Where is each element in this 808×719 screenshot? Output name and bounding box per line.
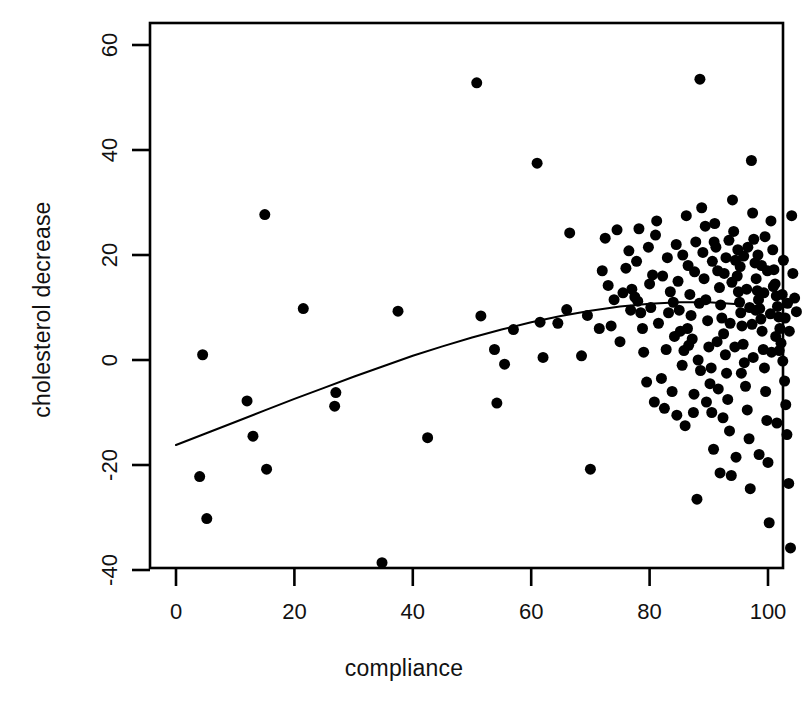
data-point: [197, 349, 208, 360]
data-point: [673, 276, 684, 287]
data-point: [475, 310, 486, 321]
data-point: [684, 289, 695, 300]
data-point: [751, 273, 762, 284]
data-point: [576, 350, 587, 361]
data-point: [747, 208, 758, 219]
data-point: [747, 319, 758, 330]
data-point: [612, 224, 623, 235]
data-point: [720, 252, 731, 263]
data-point: [701, 397, 712, 408]
scatter-plot-figure: 020406080100-40-200204060 compliance cho…: [0, 0, 808, 719]
x-tick-label: 60: [519, 599, 543, 624]
data-point: [761, 415, 772, 426]
data-point: [780, 399, 791, 410]
data-point: [677, 250, 688, 261]
data-point: [653, 318, 664, 329]
y-tick-label: 20: [97, 243, 122, 267]
data-point: [671, 239, 682, 250]
data-point: [784, 326, 795, 337]
data-point: [623, 245, 634, 256]
data-point: [744, 433, 755, 444]
data-point: [201, 513, 212, 524]
data-point: [726, 277, 737, 288]
data-point: [713, 383, 724, 394]
y-tick-label: -20: [97, 449, 122, 481]
data-point: [694, 74, 705, 85]
data-point: [740, 381, 751, 392]
data-point: [689, 266, 700, 277]
data-point: [758, 287, 769, 298]
data-point: [736, 368, 747, 379]
data-point: [641, 377, 652, 388]
data-point: [723, 235, 734, 246]
data-point: [615, 336, 626, 347]
data-point: [714, 282, 725, 293]
data-point: [489, 344, 500, 355]
data-point: [721, 368, 732, 379]
data-point: [597, 265, 608, 276]
data-point: [682, 323, 693, 334]
data-point: [752, 250, 763, 261]
data-point: [194, 471, 205, 482]
data-point: [657, 271, 668, 282]
data-point: [783, 478, 794, 489]
data-point: [771, 418, 782, 429]
data-point: [674, 305, 685, 316]
data-point: [667, 386, 678, 397]
data-point: [780, 313, 791, 324]
data-point: [637, 323, 648, 334]
data-point: [681, 210, 692, 221]
data-point: [650, 230, 661, 241]
data-point: [725, 318, 736, 329]
data-point: [499, 359, 510, 370]
data-point: [617, 287, 628, 298]
data-point: [702, 315, 713, 326]
data-point: [762, 265, 773, 276]
data-point: [736, 320, 747, 331]
data-point: [767, 244, 778, 255]
data-point: [791, 306, 802, 317]
data-point: [781, 429, 792, 440]
data-point: [651, 215, 662, 226]
data-point: [757, 326, 768, 337]
x-tick-label: 20: [282, 599, 306, 624]
data-point: [770, 331, 781, 342]
data-point: [242, 395, 253, 406]
data-point: [778, 255, 789, 266]
data-point: [532, 158, 543, 169]
data-point: [535, 317, 546, 328]
y-tick-label: 40: [97, 138, 122, 162]
data-point: [715, 467, 726, 478]
data-point: [719, 268, 730, 279]
data-point: [764, 517, 775, 528]
data-point: [661, 344, 672, 355]
data-point: [677, 360, 688, 371]
data-point: [735, 261, 746, 272]
data-point: [680, 420, 691, 431]
data-point: [706, 362, 717, 373]
data-point: [745, 483, 756, 494]
data-point: [786, 210, 797, 221]
data-point: [620, 263, 631, 274]
data-point: [720, 349, 731, 360]
x-axis-title: compliance: [0, 655, 808, 682]
data-point: [643, 242, 654, 253]
data-point: [669, 331, 680, 342]
data-point: [754, 449, 765, 460]
data-point: [564, 227, 575, 238]
data-point: [647, 269, 658, 280]
data-point: [247, 431, 258, 442]
data-point: [691, 494, 702, 505]
data-point: [760, 231, 771, 242]
data-point: [694, 298, 705, 309]
data-point: [594, 323, 605, 334]
data-point: [734, 297, 745, 308]
data-point: [330, 387, 341, 398]
data-point: [718, 412, 729, 423]
data-point: [729, 341, 740, 352]
data-point: [715, 299, 726, 310]
data-point: [746, 155, 757, 166]
data-point: [709, 218, 720, 229]
data-point: [689, 389, 700, 400]
data-point: [742, 404, 753, 415]
